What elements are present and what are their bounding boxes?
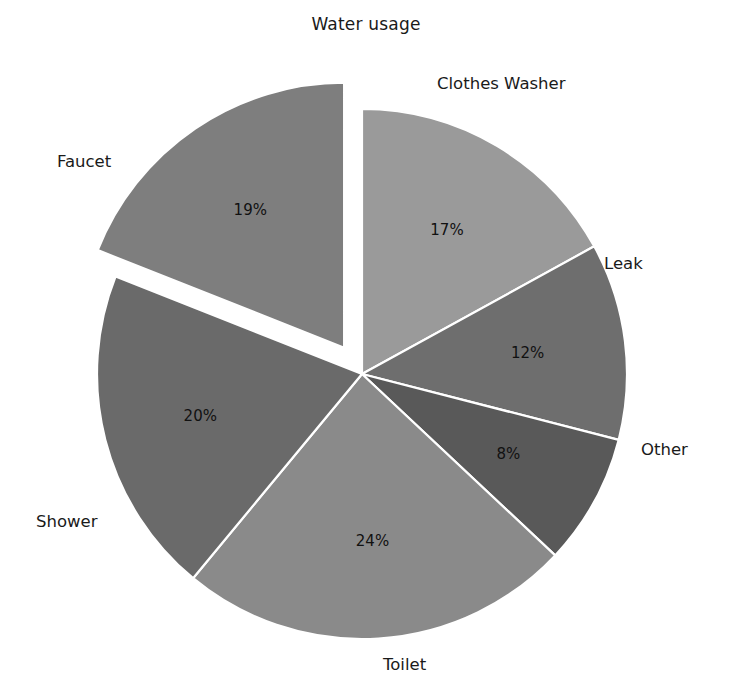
- slice-label-shower: Shower: [36, 512, 98, 531]
- pie-percent-other: 8%: [496, 445, 520, 463]
- pie-percent-toilet: 24%: [356, 532, 389, 550]
- pie-percent-leak: 12%: [511, 344, 544, 362]
- slice-label-other: Other: [641, 440, 688, 459]
- chart-figure: Water usage 17%12%8%24%20%19% Clothes Wa…: [0, 0, 732, 695]
- pie-chart: 17%12%8%24%20%19% Clothes Washer Leak Ot…: [0, 0, 732, 695]
- slice-label-toilet: Toilet: [382, 655, 427, 674]
- slice-label-clothes-washer: Clothes Washer: [437, 74, 566, 93]
- pie-wedges: [97, 83, 627, 639]
- pie-percent-faucet: 19%: [234, 201, 267, 219]
- pie-percent-clothes-washer: 17%: [430, 221, 463, 239]
- slice-label-leak: Leak: [604, 254, 643, 273]
- slice-label-faucet: Faucet: [57, 152, 112, 171]
- pie-percent-shower: 20%: [184, 407, 217, 425]
